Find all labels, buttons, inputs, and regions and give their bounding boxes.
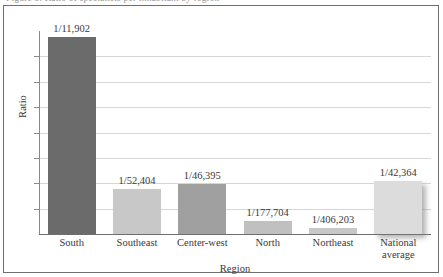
bar-slot: 1/52,404 <box>104 31 169 234</box>
y-axis-tick <box>34 209 40 210</box>
bar[interactable] <box>374 181 422 234</box>
y-axis-title: Ratio <box>17 77 28 137</box>
bar-slot: 1/42,364 <box>366 31 431 234</box>
bar-slot: 1/11,902 <box>39 31 104 234</box>
x-axis-label-line: National <box>366 237 431 249</box>
bar-slot: 1/177,704 <box>235 31 300 234</box>
x-axis-title: Region <box>39 263 431 274</box>
bar-value-label: 1/11,902 <box>53 24 90 35</box>
x-axis-label: Southeast <box>104 237 169 249</box>
x-axis-line <box>39 234 431 235</box>
x-axis-label-line: Southeast <box>104 237 169 249</box>
x-axis-label: Northeast <box>300 237 365 249</box>
x-axis-label: Center-west <box>170 237 235 249</box>
bar-value-label: 1/52,404 <box>118 176 155 187</box>
bar[interactable] <box>244 221 292 234</box>
y-axis-tick <box>34 133 40 134</box>
x-axis-label-line: Northeast <box>300 237 365 249</box>
figure-frame: 1/11,9021/52,4041/46,3951/177,7041/406,2… <box>3 5 439 273</box>
y-axis-tick <box>34 56 40 57</box>
bar-value-label: 1/177,704 <box>247 208 289 219</box>
y-axis-tick <box>34 158 40 159</box>
bar[interactable] <box>113 189 161 234</box>
x-axis-label: Nationalaverage <box>366 237 431 260</box>
x-axis-label-line: North <box>235 237 300 249</box>
bar-value-label: 1/42,364 <box>380 168 417 179</box>
bar-slot: 1/406,203 <box>300 31 365 234</box>
x-axis-label-line: South <box>39 237 104 249</box>
bar[interactable] <box>178 184 226 234</box>
x-axis-label-line: Center-west <box>170 237 235 249</box>
bar-value-label: 1/406,203 <box>312 215 354 226</box>
y-axis-tick <box>34 82 40 83</box>
y-axis-tick <box>34 183 40 184</box>
y-axis-tick <box>34 107 40 108</box>
bar[interactable] <box>48 37 96 234</box>
bar-slot: 1/46,395 <box>170 31 235 234</box>
x-axis-label: North <box>235 237 300 249</box>
x-axis-label-line: average <box>366 249 431 261</box>
x-axis-label: South <box>39 237 104 249</box>
bar[interactable] <box>309 228 357 234</box>
bar-value-label: 1/46,395 <box>184 171 221 182</box>
bar-series: 1/11,9021/52,4041/46,3951/177,7041/406,2… <box>39 31 431 234</box>
figure-caption-sliver: Figure 3. Ratio of specialists per inhab… <box>6 0 306 3</box>
